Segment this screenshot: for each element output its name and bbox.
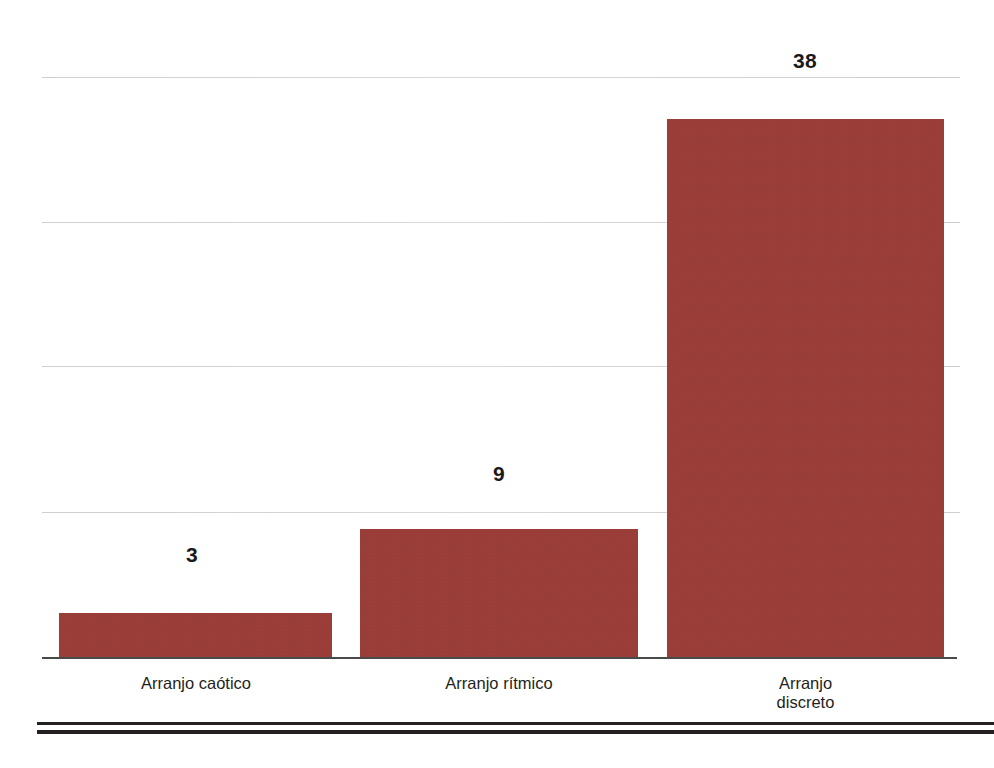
bar-chart-figure: 3 9 38 Arranjo caótico Arranjo rítmico A… [0, 0, 994, 768]
value-label-arranjo-ritmico: 9 [454, 463, 544, 484]
category-label-arranjo-ritmico: Arranjo rítmico [357, 674, 641, 693]
bar-arranjo-discreto[interactable] [667, 119, 944, 657]
value-label-arranjo-discreto: 38 [760, 50, 850, 71]
bar-arranjo-ritmico[interactable] [360, 529, 638, 657]
gridline-40 [42, 77, 960, 78]
bar-arranjo-caotico[interactable] [59, 613, 332, 657]
bottom-rule-upper [37, 722, 994, 725]
plot-area: 3 9 38 [0, 0, 994, 660]
x-axis-line [42, 657, 957, 659]
category-label-arranjo-caotico: Arranjo caótico [55, 674, 337, 693]
value-label-arranjo-caotico: 3 [147, 544, 237, 565]
category-label-arranjo-discreto: Arranjo discreto [664, 674, 947, 713]
bottom-rule-lower [37, 730, 994, 734]
